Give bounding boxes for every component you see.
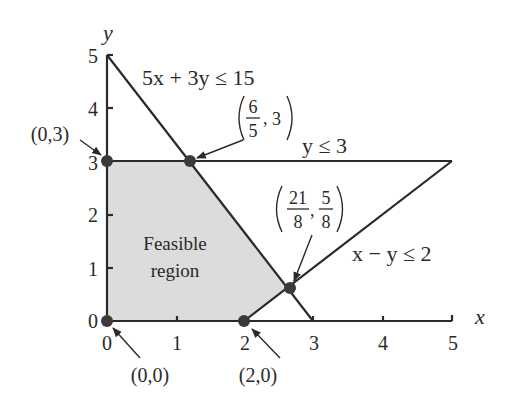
x-tick-5: 5 [448,332,458,354]
fraction-numerator: 5 [322,188,331,208]
y-tick-5: 5 [88,45,98,67]
x-tick-1: 1 [172,332,182,354]
vertex-21-8-5-8 [284,282,296,294]
vertex-label-0-0: (0,0) [131,364,169,387]
vertex-6-5-3 [184,155,196,167]
comma: , [263,108,268,128]
fraction-denominator: 8 [294,212,303,232]
vertex-label-2-0: (2,0) [239,364,277,387]
vertex-2-0 [238,315,250,327]
x-tick-0: 0 [102,332,112,354]
vertex-y-value: 3 [272,109,281,129]
vertex-label-6-5-3: 6 5 , 3 [239,96,292,141]
constraint-label-y-le-3: y ≤ 3 [302,133,347,158]
x-tick-4: 4 [378,332,388,354]
fraction-denominator: 5 [249,121,258,141]
vertex-label-21-8-5-8: 21 8 , 5 8 [277,186,343,232]
feasible-region-diagram: 0 1 2 3 4 5 0 1 2 3 4 5 y x 5x + 3y ≤ 15… [0,0,514,405]
vertex-label-0-3: (0,3) [31,123,69,146]
x-tick-labels: 0 1 2 3 4 5 [102,332,458,354]
y-tick-1: 1 [88,258,98,280]
y-tick-4: 4 [88,98,98,120]
y-tick-labels: 0 1 2 3 4 5 [88,45,98,332]
constraint-label-x-minus-y: x − y ≤ 2 [352,241,431,266]
arrow-to-21-8-5-8 [294,235,312,281]
fraction-numerator: 21 [289,188,307,208]
region-label-line1: Feasible [143,233,206,254]
y-tick-3: 3 [88,152,98,174]
x-tick-2: 2 [240,332,250,354]
region-label-line2: region [151,260,200,281]
arrow-to-2-0 [252,329,280,358]
x-tick-3: 3 [309,332,319,354]
arrow-to-0-0 [113,328,140,358]
arrow-to-6-5-3 [197,140,243,158]
fraction-denominator: 8 [322,212,331,232]
y-tick-2: 2 [88,204,98,226]
vertex-0-0 [101,315,113,327]
x-axis-label: x [474,304,485,329]
vertex-0-3 [101,155,113,167]
y-axis-label: y [101,20,113,45]
y-tick-0: 0 [88,310,98,332]
constraint-label-5x-3y: 5x + 3y ≤ 15 [142,65,254,90]
comma: , [310,200,315,220]
fraction-numerator: 6 [249,97,258,117]
